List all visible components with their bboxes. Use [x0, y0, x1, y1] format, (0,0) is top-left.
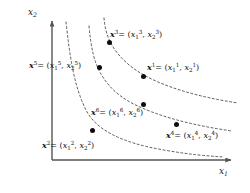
data-point-x5[interactable]	[97, 65, 102, 70]
data-point-x1[interactable]	[141, 74, 146, 79]
point-label-x5: x5= (x15, x25)	[29, 61, 81, 71]
data-point-x2[interactable]	[90, 128, 95, 133]
figure-canvas: x2 x1 x3= (x13, x23) x5= (x15, x25) x1= …	[0, 0, 250, 193]
point-label-x6: x6= (x16, x26)	[91, 108, 143, 118]
x-axis-label-sub: 1	[224, 170, 228, 177]
y-axis-label-sub: 2	[33, 11, 37, 18]
point-label-x4: x4= (x14, x24)	[166, 131, 218, 141]
point-label-x1: x1= (x11, x21)	[147, 63, 199, 73]
point-label-x3: x3= (x13, x23)	[110, 30, 162, 40]
y-axis-label: x2	[28, 8, 37, 18]
point-label-x2: x2= (x12, x22)	[42, 141, 94, 151]
x-axis-label: x1	[219, 167, 228, 177]
plot-svg	[0, 0, 250, 193]
data-point-x4[interactable]	[174, 122, 179, 127]
data-point-x6[interactable]	[141, 102, 146, 107]
